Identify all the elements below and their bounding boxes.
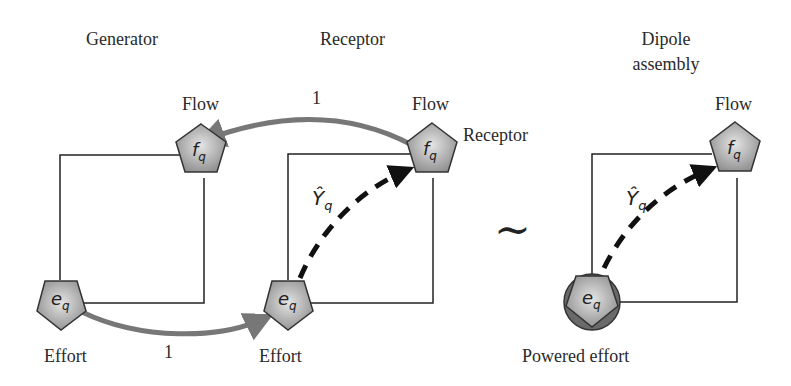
generator-loop	[60, 155, 204, 303]
top-feedback-arrow	[205, 120, 412, 145]
dipole-loop	[592, 154, 737, 302]
receptor-loop	[288, 154, 433, 303]
dipole-flow-label: Flow	[715, 94, 752, 114]
generator-flow-node: fq	[176, 124, 226, 172]
top-gain-label: 1	[312, 88, 321, 108]
dipole-admittance-label: Ŷq	[626, 186, 646, 213]
dipole-powered-effort-node: eq	[564, 274, 620, 330]
dipole-flow-node: fq	[710, 122, 760, 171]
dipole-effort-label: Powered effort	[522, 346, 629, 366]
receptor-admittance-label: Ŷq	[312, 186, 332, 213]
receptor-flow-label: Flow	[412, 94, 449, 114]
diagram-canvas: Generator Receptor Dipole assembly 1 1 Ŷ…	[0, 0, 791, 386]
generator-effort-label: Effort	[44, 346, 87, 366]
bottom-gain-label: 1	[164, 342, 173, 362]
receptor-effort-node: eq	[264, 281, 313, 330]
receptor-side-label: Receptor	[463, 125, 528, 145]
bottom-forward-arrow	[82, 312, 265, 334]
dipole-title-line2: assembly	[633, 54, 700, 74]
dipole-admittance-arrow	[604, 170, 708, 268]
generator-flow-label: Flow	[182, 94, 219, 114]
receptor-flow-node: fq	[407, 123, 457, 172]
receptor-title: Receptor	[320, 29, 385, 49]
equivalence-symbol: ~	[494, 204, 531, 255]
receptor-effort-label: Effort	[259, 346, 302, 366]
generator-title: Generator	[86, 29, 158, 49]
generator-effort-node: eq	[37, 281, 86, 330]
dipole-title-line1: Dipole	[642, 29, 691, 49]
